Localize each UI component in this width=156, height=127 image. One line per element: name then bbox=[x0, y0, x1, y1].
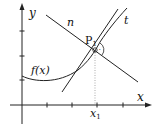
normal-label: n bbox=[67, 16, 74, 29]
right-angle-dot: · bbox=[99, 45, 102, 54]
tangent-label: t bbox=[124, 14, 129, 27]
curve-label: f(x) bbox=[30, 64, 50, 77]
tangent-normal-diagram: · y x n t f(x) P1 x1 bbox=[0, 0, 156, 127]
x-axis-label: x bbox=[137, 90, 144, 104]
x-axis bbox=[10, 103, 152, 108]
y-axis-arrow-icon bbox=[20, 3, 25, 10]
x-axis-arrow-icon bbox=[145, 103, 152, 108]
x1-label: x1 bbox=[90, 107, 101, 121]
point-label: P1 bbox=[85, 34, 97, 48]
y-axis-label: y bbox=[28, 6, 36, 20]
y-axis bbox=[20, 3, 25, 124]
